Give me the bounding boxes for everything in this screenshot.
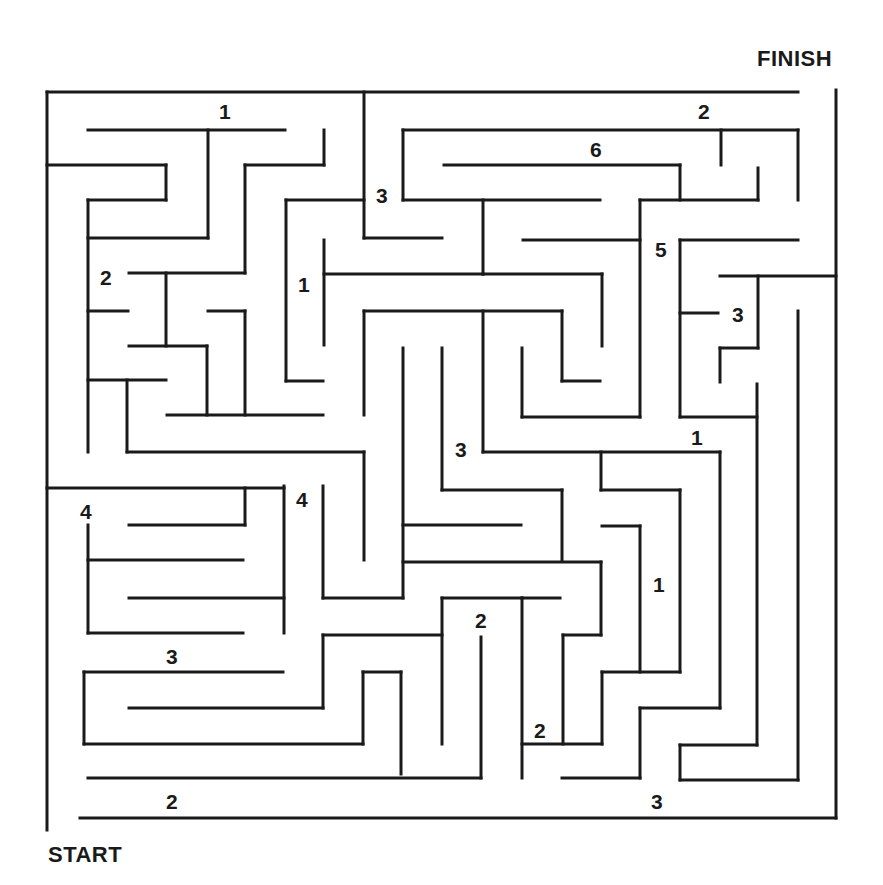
start-label: START xyxy=(48,842,122,868)
maze-number: 4 xyxy=(296,488,308,512)
maze-number: 1 xyxy=(219,100,231,124)
maze-number: 1 xyxy=(653,573,665,597)
maze-number: 3 xyxy=(651,790,663,814)
maze-number: 3 xyxy=(166,645,178,669)
maze-number: 2 xyxy=(698,100,710,124)
maze-grid xyxy=(0,0,883,885)
maze-walls xyxy=(47,90,836,830)
maze-number: 2 xyxy=(166,790,178,814)
maze-number: 1 xyxy=(691,426,703,450)
maze-number: 3 xyxy=(455,438,467,462)
maze-number: 1 xyxy=(298,273,310,297)
maze-number: 6 xyxy=(590,138,602,162)
maze-number: 3 xyxy=(732,303,744,327)
maze-number: 2 xyxy=(534,719,546,743)
finish-label: FINISH xyxy=(757,46,832,72)
maze-number: 4 xyxy=(80,500,92,524)
maze-number: 3 xyxy=(376,184,388,208)
maze-number: 2 xyxy=(100,266,112,290)
maze-number: 2 xyxy=(475,609,487,633)
maze-number: 5 xyxy=(655,238,667,262)
